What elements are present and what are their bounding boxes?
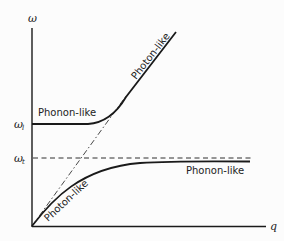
omega-t-label: ω t [14, 152, 25, 166]
upper-phonon-like-label: Phonon-like [38, 107, 96, 118]
svg-text:l: l [22, 124, 24, 132]
x-axis-label: q [270, 220, 277, 233]
upper-photon-like-label: Photon-like [129, 31, 172, 82]
y-axis-label: ω [28, 12, 37, 25]
lower-phonon-like-label: Phonon-like [186, 165, 244, 176]
omega-l-label: ω l [14, 118, 24, 132]
svg-text:t: t [22, 158, 25, 166]
lower-photon-like-label: Photon-like [42, 177, 90, 223]
dispersion-diagram: ω q ω l ω t Phonon-like Photon-like Phot… [0, 0, 284, 241]
